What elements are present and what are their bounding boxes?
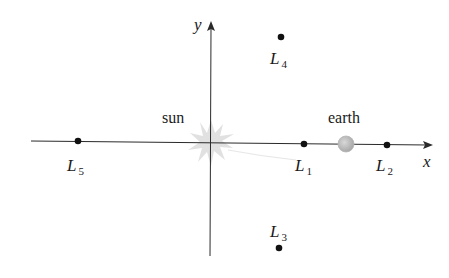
label-L2: L2 xyxy=(375,156,393,177)
orbit-trace xyxy=(228,150,296,160)
earth-label: earth xyxy=(328,109,360,126)
point-L4 xyxy=(278,34,285,41)
earth-icon xyxy=(338,136,354,152)
y-axis-label: y xyxy=(192,15,202,34)
sun-label: sun xyxy=(162,109,184,126)
label-L1: L1 xyxy=(294,156,312,177)
x-axis-label: x xyxy=(422,152,431,171)
label-L5: L5 xyxy=(66,156,84,177)
point-L3 xyxy=(276,245,283,252)
label-L3: L3 xyxy=(269,222,287,243)
lagrange-diagram: x y sun earth L5 L1 L2 L4 L3 xyxy=(0,0,449,278)
point-L2 xyxy=(384,142,391,149)
point-L5 xyxy=(75,138,82,145)
label-L4: L4 xyxy=(269,49,287,70)
point-L1 xyxy=(301,141,308,148)
